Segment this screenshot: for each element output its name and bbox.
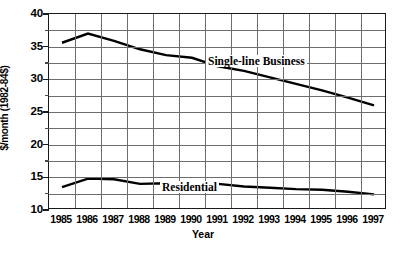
series-annotation-residential: Residential xyxy=(160,181,219,193)
y-axis-tick-minor xyxy=(45,193,49,194)
gridline-vertical xyxy=(309,14,310,208)
gridline-vertical xyxy=(153,14,154,208)
y-axis-tick-major xyxy=(43,177,49,179)
gridline-vertical xyxy=(231,14,232,208)
gridline-vertical xyxy=(257,14,258,208)
series-annotation-single-line-business: Single-line Business xyxy=(206,55,307,67)
y-axis-tick-major xyxy=(43,79,49,81)
y-axis-tick-major xyxy=(43,144,49,146)
y-axis-tick-label: 30 xyxy=(31,72,43,84)
y-axis-tick-major xyxy=(43,13,49,15)
gridline-vertical xyxy=(205,14,206,208)
x-axis-tick-label: 1997 xyxy=(362,213,383,225)
y-axis-tick-label: 20 xyxy=(31,138,43,150)
y-axis-tick-major xyxy=(43,209,49,211)
gridline-vertical xyxy=(283,14,284,208)
x-axis-labels: 1985198619871988198919901991199219931994… xyxy=(48,213,386,227)
y-axis-tick-label: 15 xyxy=(31,170,43,182)
x-axis-tick-label: 1990 xyxy=(180,213,201,225)
x-axis-tick-label: 1994 xyxy=(284,213,305,225)
y-axis-tick-major xyxy=(43,46,49,48)
x-axis-tick-label: 1988 xyxy=(128,213,149,225)
y-axis-tick-label: 35 xyxy=(31,40,43,52)
y-axis-tick-label: 40 xyxy=(31,7,43,19)
x-axis-title: Year xyxy=(0,228,406,240)
gridlines xyxy=(49,14,385,208)
y-axis-tick-major xyxy=(43,111,49,113)
x-axis-tick-label: 1995 xyxy=(310,213,331,225)
chart-figure: 40353025201510 $/month (1982-84$) 198519… xyxy=(0,0,406,264)
x-axis-tick-label: 1996 xyxy=(336,213,357,225)
y-axis-title: $/month (1982-84$) xyxy=(0,65,10,150)
x-axis-tick-label: 1992 xyxy=(232,213,253,225)
gridline-vertical xyxy=(361,14,362,208)
x-axis-tick-label: 1985 xyxy=(50,213,71,225)
gridline-vertical xyxy=(335,14,336,208)
y-axis-tick-label: 10 xyxy=(31,203,43,215)
x-axis-tick-label: 1993 xyxy=(258,213,279,225)
x-axis-tick-label: 1986 xyxy=(76,213,97,225)
y-axis-tick-minor xyxy=(45,160,49,161)
x-axis-tick-label: 1991 xyxy=(206,213,227,225)
x-axis-tick-label: 1987 xyxy=(102,213,123,225)
y-axis-tick-minor xyxy=(45,30,49,31)
x-axis-tick-label: 1989 xyxy=(154,213,175,225)
gridline-vertical xyxy=(75,14,76,208)
y-axis-tick-label: 25 xyxy=(31,105,43,117)
y-axis-tick-minor xyxy=(45,62,49,63)
y-axis-tick-minor xyxy=(45,128,49,129)
y-axis-tick-minor xyxy=(45,95,49,96)
plot-area xyxy=(48,13,386,209)
gridline-vertical xyxy=(101,14,102,208)
gridline-vertical xyxy=(179,14,180,208)
gridline-vertical xyxy=(127,14,128,208)
